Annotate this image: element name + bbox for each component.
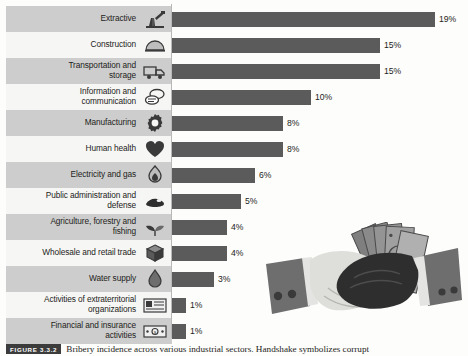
value-label: 19% xyxy=(439,6,456,32)
value-label: 10% xyxy=(315,84,332,110)
category-label-line: Manufacturing xyxy=(85,118,136,128)
value-bar xyxy=(172,142,283,157)
truck-icon xyxy=(140,58,169,84)
oil-pump-icon xyxy=(140,6,169,32)
value-label: 5% xyxy=(245,188,257,214)
value-bar xyxy=(172,220,227,235)
sprout-icon xyxy=(140,214,169,240)
category-label: Construction xyxy=(8,32,136,58)
value-label: 6% xyxy=(259,162,271,188)
water-drop-icon xyxy=(140,266,169,292)
chart-row: Human health 8% xyxy=(0,136,468,162)
value-label: 3% xyxy=(218,266,230,292)
category-label-line: Wholesale and retail trade xyxy=(42,248,136,258)
category-label: Wholesale and retail trade xyxy=(8,240,136,266)
value-bar xyxy=(172,272,214,287)
value-bar xyxy=(172,168,255,183)
category-label-line: Human health xyxy=(86,144,136,154)
bar-chart: $ xyxy=(0,0,468,340)
category-label: Transportation and storage xyxy=(8,58,136,84)
category-label-line: Water supply xyxy=(89,274,136,284)
category-label: Public administration and defense xyxy=(8,188,136,214)
chart-row: Manufacturing 8% xyxy=(0,110,468,136)
value-label: 4% xyxy=(231,240,243,266)
speech-bubbles-icon xyxy=(140,84,169,110)
category-label-line: Electricity and gas xyxy=(71,170,136,180)
category-label-line: fishing xyxy=(50,227,136,237)
category-label: Activities of extraterritorial organizat… xyxy=(8,292,136,318)
category-label: Manufacturing xyxy=(8,110,136,136)
figure-caption: FIGURE 3.3.2 Bribery incidence across va… xyxy=(6,344,468,356)
value-bar xyxy=(172,38,380,53)
category-label: Extractive xyxy=(8,6,136,32)
value-bar xyxy=(172,12,435,27)
chart-row: Extractive 19% xyxy=(0,6,468,32)
value-bar xyxy=(172,116,283,131)
value-label: 8% xyxy=(287,136,299,162)
category-label: Human health xyxy=(8,136,136,162)
value-bar xyxy=(172,298,186,313)
chart-row: Transportation and storage 15% xyxy=(0,58,468,84)
category-label-line: defense xyxy=(46,201,136,211)
category-label: Electricity and gas xyxy=(8,162,136,188)
chart-row: Information and communication 10% xyxy=(0,84,468,110)
id-card-icon xyxy=(140,292,169,318)
flame-icon xyxy=(140,162,169,188)
gear-icon xyxy=(140,110,169,136)
value-label: 1% xyxy=(190,292,202,318)
category-label-line: organizations xyxy=(44,305,136,315)
value-label: 4% xyxy=(231,214,243,240)
box-icon xyxy=(140,240,169,266)
value-bar xyxy=(172,64,380,79)
figure-number-badge: FIGURE 3.3.2 xyxy=(6,344,61,354)
chart-row: Electricity and gas 6% xyxy=(0,162,468,188)
handshake-with-money-illustration: $ xyxy=(262,222,462,324)
category-label-line: communication xyxy=(80,97,136,107)
category-label: Agriculture, forestry and fishing xyxy=(8,214,136,240)
value-axis-line xyxy=(171,4,172,338)
hard-hat-icon xyxy=(140,32,169,58)
figure-caption-text: Bribery incidence across various industr… xyxy=(66,344,369,354)
category-label-line: Extractive xyxy=(101,14,136,24)
category-label: Water supply xyxy=(8,266,136,292)
value-bar xyxy=(172,324,186,339)
chart-row: Construction 15% xyxy=(0,32,468,58)
value-bar xyxy=(172,194,241,209)
heart-icon xyxy=(140,136,169,162)
category-label-line: Construction xyxy=(91,40,136,50)
category-label: Financial and insurance activities xyxy=(8,318,136,344)
category-label: Information and communication xyxy=(8,84,136,110)
value-label: 15% xyxy=(384,32,401,58)
chart-row: Public administration and defense 5% xyxy=(0,188,468,214)
officer-cap-icon xyxy=(140,188,169,214)
category-label-line: storage xyxy=(68,71,136,81)
value-bar xyxy=(172,90,311,105)
value-label: 1% xyxy=(190,318,202,344)
value-label: 15% xyxy=(384,58,401,84)
value-label: 8% xyxy=(287,110,299,136)
value-bar xyxy=(172,246,227,261)
banknote-icon: $ xyxy=(140,318,169,344)
category-label-line: activities xyxy=(51,331,136,341)
